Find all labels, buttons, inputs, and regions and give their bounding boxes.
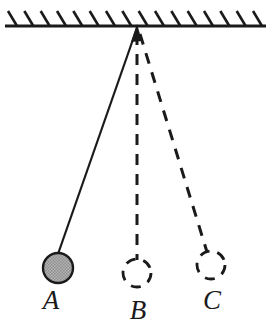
hatch-mark bbox=[106, 11, 115, 26]
hatch-mark bbox=[188, 11, 197, 26]
hatch-mark bbox=[73, 11, 82, 26]
label-a: A bbox=[41, 285, 60, 315]
hatch-mark bbox=[8, 11, 17, 26]
hatch-mark bbox=[171, 11, 180, 26]
label-b: B bbox=[130, 295, 147, 325]
hatch-mark bbox=[253, 11, 262, 26]
hatch-mark bbox=[57, 11, 66, 26]
label-c: C bbox=[203, 285, 222, 315]
hatch-mark bbox=[90, 11, 99, 26]
hatch-mark bbox=[220, 11, 229, 26]
bob-a bbox=[43, 253, 73, 283]
pendulum-bobs bbox=[43, 251, 225, 287]
hatch-mark bbox=[24, 11, 33, 26]
hatch-mark bbox=[204, 11, 213, 26]
position-labels: A B C bbox=[41, 285, 222, 325]
hatch-mark bbox=[139, 11, 148, 26]
bob-c bbox=[197, 251, 225, 279]
pendulum-strings bbox=[58, 28, 207, 260]
string-a bbox=[58, 28, 137, 254]
hatch-mark bbox=[155, 11, 164, 26]
hatch-mark bbox=[237, 11, 246, 26]
pendulum-figure: A B C bbox=[0, 0, 275, 325]
hatch-marks bbox=[8, 11, 262, 26]
bob-b bbox=[123, 259, 151, 287]
string-c bbox=[140, 34, 207, 252]
hatch-mark bbox=[122, 11, 131, 26]
ceiling-support bbox=[5, 11, 266, 26]
hatch-mark bbox=[41, 11, 50, 26]
pendulum-diagram-svg: A B C bbox=[0, 0, 275, 325]
